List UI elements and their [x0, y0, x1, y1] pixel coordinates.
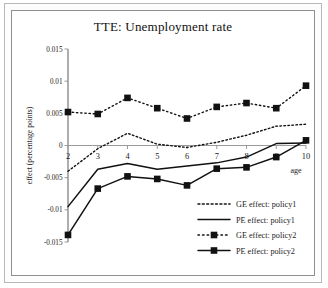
x-tick-label: 3	[96, 152, 100, 161]
series-marker-2	[303, 82, 310, 89]
series-marker-2	[184, 115, 191, 122]
legend-label-3: PE effect: policy2	[236, 247, 295, 256]
y-tick-label: 0.005	[46, 110, 63, 118]
x-axis-title: age	[290, 166, 302, 175]
y-tick-label: 0.01	[50, 78, 63, 86]
legend-label-1: PE effect: policy1	[236, 216, 295, 225]
y-axis-title: effect (percentage points)	[25, 106, 34, 184]
x-tick-label: 7	[215, 152, 219, 161]
plot-area: 0.0150.010.0050-0.005-0.01-0.01523456789…	[12, 11, 314, 275]
series-marker-3	[65, 232, 72, 239]
series-marker-3	[154, 176, 161, 183]
series-marker-2	[243, 100, 250, 107]
series-marker-3	[213, 165, 220, 172]
series-marker-2	[154, 105, 161, 112]
legend-label-2: GE effect: policy2	[236, 231, 296, 240]
series-marker-2	[94, 111, 101, 118]
y-tick-label: -0.005	[44, 174, 63, 182]
x-tick-label: 6	[185, 152, 189, 161]
y-tick-label: 0.015	[46, 46, 63, 54]
series-line-0	[68, 124, 306, 171]
series-marker-2	[213, 104, 220, 111]
y-tick-label: -0.015	[44, 239, 63, 247]
x-tick-label: 5	[155, 152, 159, 161]
legend-marker-2	[211, 232, 218, 239]
legend-marker-3	[211, 247, 218, 254]
x-tick-label: 4	[125, 152, 130, 161]
series-marker-3	[273, 154, 280, 161]
y-tick-label: -0.01	[48, 206, 63, 214]
chart-canvas: 0.0150.010.0050-0.005-0.01-0.01523456789…	[12, 11, 316, 277]
series-marker-3	[124, 173, 131, 180]
series-marker-2	[273, 105, 280, 112]
series-marker-3	[303, 137, 310, 144]
series-marker-2	[124, 95, 131, 102]
series-marker-3	[94, 185, 101, 192]
series-line-2	[68, 86, 306, 119]
legend-label-0: GE effect: policy1	[236, 200, 296, 209]
figure-inner-frame: TTE: Unemployment rate 0.0150.010.0050-0…	[11, 10, 315, 276]
series-marker-3	[184, 182, 191, 189]
series-marker-3	[243, 164, 250, 171]
figure-outer-frame: TTE: Unemployment rate 0.0150.010.0050-0…	[4, 3, 322, 283]
series-marker-2	[65, 109, 72, 116]
y-tick-label: 0	[59, 142, 63, 150]
x-tick-label: 2	[66, 152, 70, 161]
x-tick-label: 10	[302, 152, 310, 161]
